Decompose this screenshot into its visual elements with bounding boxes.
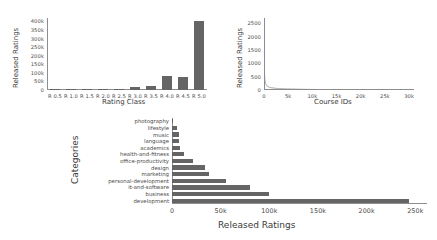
- chart-course-ids-xtick-label: 20k: [352, 93, 370, 99]
- list-item: business: [146, 191, 170, 197]
- list-item: lifestyle: [148, 125, 169, 131]
- chart-course-ids-ytick-label: 2500: [228, 20, 261, 26]
- chart-rating-class-ytick-label: 100k: [0, 70, 44, 76]
- list-item: design: [151, 165, 169, 171]
- list-item: health-and-fitness: [120, 151, 169, 157]
- chart-course-ids-plot: [264, 18, 414, 90]
- chart-course-ids-ytick-label: 1000: [228, 60, 261, 66]
- list-item: photography: [134, 118, 169, 124]
- table-row: [178, 77, 188, 90]
- chart-rating-class-yaxis: [47, 18, 48, 90]
- table-row: [162, 76, 172, 90]
- table-row: [172, 146, 180, 150]
- chart-rating-class-ytick-label: 50k: [0, 78, 44, 84]
- chart-categories-xtick-label: 50k: [209, 207, 233, 215]
- table-row: [172, 199, 409, 203]
- chart-categories-xaxis: [172, 203, 427, 204]
- chart-course-ids-xtick-label: 0: [255, 93, 273, 99]
- chart-rating-class-ytick-label: 200k: [0, 53, 44, 59]
- chart-course-ids: Released Ratings Course IDs 050010001500…: [228, 4, 437, 110]
- chart-course-ids-ytick-label: 500: [228, 74, 261, 80]
- chart-categories-xtick-label: 150k: [306, 207, 330, 215]
- chart-categories-ylabel: Categories: [70, 135, 80, 184]
- list-item: academics: [140, 145, 169, 151]
- chart-rating-class-ytick-label: 300k: [0, 36, 44, 42]
- chart-course-ids-xtick-label: 5k: [279, 93, 297, 99]
- table-row: [172, 139, 179, 143]
- chart-rating-class-plot: [47, 18, 207, 90]
- table-row: [172, 179, 226, 183]
- list-item: music: [153, 132, 169, 138]
- chart-rating-class-ytick-label: 350k: [0, 27, 44, 33]
- chart-rating-class-ytick-label: 400k: [0, 18, 44, 24]
- table-row: [194, 21, 204, 90]
- chart-categories-xlabel: Released Ratings: [218, 220, 295, 230]
- chart-rating-class-xlabel: Rating Class: [102, 98, 145, 106]
- chart-categories-xtick-label: 200k: [355, 207, 379, 215]
- chart-rating-class-xtick-label: R 5.0: [190, 93, 208, 99]
- table-row: [172, 185, 250, 189]
- table-row: [172, 165, 205, 169]
- table-row: [172, 126, 177, 130]
- list-item: personal-development: [108, 178, 169, 184]
- table-row: [172, 152, 184, 156]
- chart-course-ids-line: [264, 18, 414, 90]
- table-row: [172, 132, 179, 136]
- chart-categories-xtick-label: 250k: [403, 207, 427, 215]
- chart-categories: Categories Released Ratings photographyl…: [0, 112, 437, 240]
- list-item: marketing: [142, 171, 169, 177]
- chart-categories-plot: [172, 118, 427, 204]
- list-item: office-productivity: [120, 158, 169, 164]
- list-item: language: [144, 138, 169, 144]
- chart-rating-class-ytick-label: 250k: [0, 44, 44, 50]
- chart-categories-xtick-label: 100k: [257, 207, 281, 215]
- chart-course-ids-xtick-label: 25k: [376, 93, 394, 99]
- table-row: [172, 192, 269, 196]
- table-row: [172, 159, 193, 163]
- chart-course-ids-xlabel: Course IDs: [314, 98, 352, 106]
- chart-rating-class: Released Ratings Rating Class 050k100k15…: [0, 4, 228, 110]
- chart-rating-class-ytick-label: 150k: [0, 61, 44, 67]
- chart-course-ids-xtick-label: 15k: [328, 93, 346, 99]
- table-row: [172, 119, 173, 123]
- chart-course-ids-xtick-label: 30k: [400, 93, 418, 99]
- chart-categories-xtick-label: 0: [160, 207, 184, 215]
- chart-course-ids-xtick-label: 10k: [303, 93, 321, 99]
- chart-course-ids-ytick-label: 1500: [228, 47, 261, 53]
- chart-course-ids-ytick-label: 2000: [228, 34, 261, 40]
- list-item: development: [133, 198, 169, 204]
- list-item: it-and-software: [128, 184, 169, 190]
- table-row: [172, 172, 209, 176]
- chart-rating-class-ytick-label: 0: [0, 87, 44, 93]
